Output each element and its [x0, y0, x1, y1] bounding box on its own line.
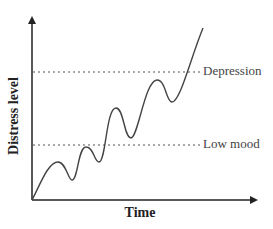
y-axis-title: Distress level [6, 77, 22, 155]
distress-curve [32, 28, 203, 200]
distress-chart [0, 0, 273, 229]
low-mood-label: Low mood [203, 136, 260, 152]
x-axis-title: Time [125, 205, 156, 221]
depression-label: Depression [203, 63, 262, 79]
